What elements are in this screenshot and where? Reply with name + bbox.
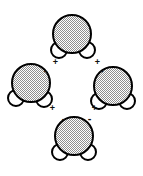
charge-symbol: - xyxy=(97,67,106,76)
charge-symbol: + xyxy=(90,104,99,113)
charge-symbol: - xyxy=(85,115,94,124)
water-molecule-top xyxy=(51,15,95,58)
charge-symbol: + xyxy=(48,104,57,113)
charge-symbol: + xyxy=(51,58,60,67)
oxygen-atom xyxy=(53,15,91,53)
charge-symbol: - xyxy=(41,67,50,76)
water-cluster-svg xyxy=(0,0,143,176)
charge-symbol: - xyxy=(59,115,68,124)
diagram-canvas: + + - - + + - - xyxy=(0,0,143,176)
